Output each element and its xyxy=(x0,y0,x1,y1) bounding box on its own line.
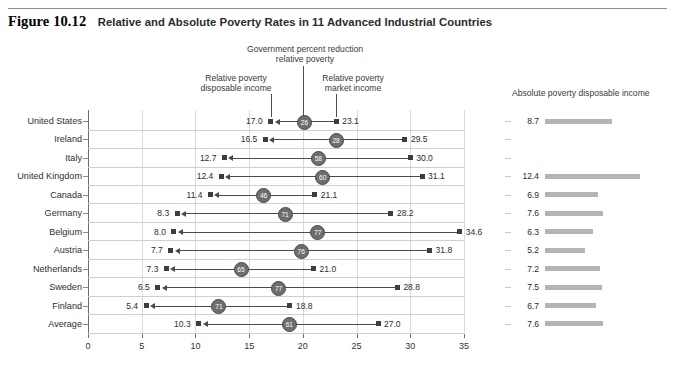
disposable-income-marker xyxy=(263,137,268,142)
absolute-poverty-value: 8.7 xyxy=(511,116,539,126)
x-axis-tick-label: 5 xyxy=(129,341,155,351)
disposable-income-marker xyxy=(222,155,227,160)
annotation-relative-disposable-line1: Relative poverty xyxy=(183,73,289,83)
row-separator xyxy=(88,203,464,204)
market-income-marker xyxy=(334,119,339,124)
row-label: Austria xyxy=(0,245,82,255)
x-axis-tick xyxy=(88,334,89,338)
x-axis-tick xyxy=(303,334,304,338)
disposable-income-value: 12.7 xyxy=(188,153,216,163)
header-divider xyxy=(8,8,667,9)
market-income-value: 31.8 xyxy=(436,245,453,255)
reduction-arrowhead xyxy=(228,155,233,161)
absolute-poverty-bar xyxy=(545,119,612,124)
market-income-marker xyxy=(311,266,316,271)
annotation-government-reduction-line1: Government percent reduction xyxy=(225,44,385,54)
disposable-income-marker xyxy=(196,321,201,326)
row-separator xyxy=(88,167,464,168)
disposable-income-value: 8.0 xyxy=(138,227,166,237)
x-axis-tick xyxy=(249,334,250,338)
row-separator xyxy=(88,148,464,149)
y-axis-tick xyxy=(83,232,88,233)
annotation-government-reduction: Government percent reduction relative po… xyxy=(225,44,385,64)
absolute-poverty-value: 7.6 xyxy=(511,208,539,218)
disposable-income-marker xyxy=(208,192,213,197)
absolute-poverty-bar xyxy=(545,266,600,271)
x-axis-tick-label: 25 xyxy=(344,341,370,351)
absolute-poverty-bar xyxy=(545,211,603,216)
market-income-value: 29.5 xyxy=(411,134,428,144)
market-income-marker xyxy=(395,285,400,290)
reduction-percent-circle: 28 xyxy=(329,133,344,148)
market-income-marker xyxy=(388,211,393,216)
reduction-arrowhead xyxy=(214,192,219,198)
absolute-row-tick xyxy=(505,158,511,159)
reduction-percent-circle: 61 xyxy=(282,317,297,332)
x-axis-tick-label: 35 xyxy=(451,341,477,351)
market-income-value: 31.1 xyxy=(428,171,445,181)
annotation-relative-market-line2: market income xyxy=(305,83,401,93)
disposable-income-value: 5.4 xyxy=(110,301,138,311)
reduction-arrowhead xyxy=(225,174,230,180)
market-income-marker xyxy=(312,192,317,197)
reduction-arrowhead xyxy=(178,229,183,235)
x-axis-tick xyxy=(357,334,358,338)
annotation-relative-market: Relative poverty market income xyxy=(305,73,401,93)
x-axis-tick-label: 0 xyxy=(75,341,101,351)
absolute-poverty-value: 7.5 xyxy=(511,282,539,292)
disposable-income-marker xyxy=(164,266,169,271)
row-label: Canada xyxy=(0,190,82,200)
market-income-value: 27.0 xyxy=(384,319,401,329)
annotation-government-reduction-line2: relative poverty xyxy=(225,54,385,64)
disposable-income-marker xyxy=(171,229,176,234)
disposable-income-marker xyxy=(168,248,173,253)
absolute-panel-header: Absolute poverty disposable income xyxy=(512,88,650,98)
annotation-relative-market-line1: Relative poverty xyxy=(305,73,401,83)
market-income-marker xyxy=(287,303,292,308)
x-axis-tick-label: 20 xyxy=(290,341,316,351)
absolute-poverty-value: 6.7 xyxy=(511,301,539,311)
disposable-income-marker xyxy=(268,119,273,124)
reduction-arrowhead xyxy=(269,137,274,143)
y-axis-tick xyxy=(83,158,88,159)
row-label: Finland xyxy=(0,301,82,311)
absolute-poverty-value: 7.2 xyxy=(511,264,539,274)
annotation-relative-disposable: Relative poverty disposable income xyxy=(183,73,289,93)
x-axis-tick xyxy=(142,334,143,338)
reduction-percent-circle: 71 xyxy=(211,299,226,314)
y-axis-tick xyxy=(83,269,88,270)
reduction-percent-circle: 77 xyxy=(310,225,325,240)
market-income-value: 30.0 xyxy=(416,153,433,163)
figure-header: Figure 10.12 Relative and Absolute Pover… xyxy=(8,12,492,30)
market-income-value: 18.8 xyxy=(296,301,313,311)
disposable-income-value: 8.3 xyxy=(141,208,169,218)
reduction-arrowhead xyxy=(203,321,208,327)
row-label: Average xyxy=(0,319,82,329)
absolute-poverty-bar xyxy=(545,248,585,253)
page-title: Relative and Absolute Poverty Rates in 1… xyxy=(98,16,492,28)
row-separator xyxy=(88,185,464,186)
disposable-income-marker xyxy=(175,211,180,216)
reduction-arrowhead xyxy=(150,303,155,309)
x-axis-tick xyxy=(195,334,196,338)
absolute-poverty-value: 6.9 xyxy=(511,190,539,200)
market-income-value: 28.8 xyxy=(403,282,420,292)
gridline xyxy=(464,110,465,333)
y-axis-tick xyxy=(83,195,88,196)
market-income-marker xyxy=(376,321,381,326)
absolute-poverty-value: 7.6 xyxy=(511,319,539,329)
y-axis-tick xyxy=(83,139,88,140)
absolute-poverty-value: 6.3 xyxy=(511,227,539,237)
reduction-arrowhead xyxy=(170,266,175,272)
reduction-arrowhead xyxy=(175,248,180,254)
reduction-arrowhead xyxy=(181,211,186,217)
annotation-relative-disposable-line2: disposable income xyxy=(183,83,289,93)
market-income-value: 21.1 xyxy=(321,190,338,200)
row-label: United Kingdom xyxy=(0,171,82,181)
disposable-income-value: 10.3 xyxy=(163,319,191,329)
market-income-marker xyxy=(427,248,432,253)
absolute-poverty-bar xyxy=(545,174,640,179)
row-separator xyxy=(88,296,464,297)
row-label: Belgium xyxy=(0,227,82,237)
x-axis-tick-label: 10 xyxy=(182,341,208,351)
